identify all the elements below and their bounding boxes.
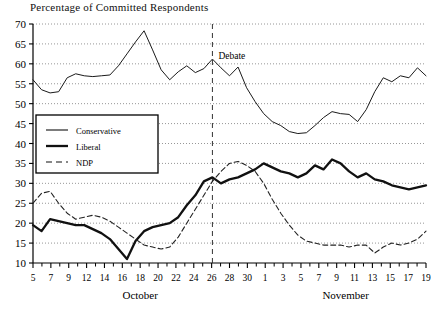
y-axis-tick-label: 25 <box>15 197 27 209</box>
y-axis-tick-label: 55 <box>15 78 27 90</box>
x-axis-group-label-november: November <box>322 289 369 301</box>
x-axis-tick-label: 7 <box>48 273 53 283</box>
y-axis-tick-label: 50 <box>15 98 27 110</box>
x-axis-tick-label: 5 <box>299 273 304 283</box>
y-axis-tick-label: 35 <box>15 157 27 169</box>
line-chart-plot: 1015202530354045505560657057912141618202… <box>0 0 444 310</box>
x-axis-tick-label: 28 <box>225 273 235 283</box>
y-axis-tick-label: 40 <box>15 138 27 150</box>
x-axis-tick-label: 17 <box>403 273 413 283</box>
y-axis-tick-label: 10 <box>15 257 27 269</box>
x-axis-tick-label: 11 <box>350 273 359 283</box>
y-axis-tick-label: 15 <box>15 237 27 249</box>
x-axis-tick-label: 13 <box>368 273 378 283</box>
x-axis-tick-label: 1 <box>263 273 268 283</box>
x-axis-tick-label: 3 <box>281 273 286 283</box>
legend-label-ndp: NDP <box>76 158 93 168</box>
x-axis-tick-label: 16 <box>118 273 128 283</box>
y-axis-tick-label: 30 <box>15 177 27 189</box>
x-axis-group-label-october: October <box>122 289 158 301</box>
x-axis-tick-label: 22 <box>171 273 181 283</box>
x-axis-tick-label: 12 <box>82 273 92 283</box>
x-axis-tick-label: 24 <box>189 273 199 283</box>
x-axis-tick-label: 26 <box>207 273 217 283</box>
legend-label-liberal: Liberal <box>76 142 101 152</box>
chart-container: Percentage of Committed Respondents 1015… <box>0 0 444 310</box>
y-axis-tick-label: 60 <box>15 58 27 70</box>
y-axis-tick-label: 65 <box>15 38 27 50</box>
y-axis-tick-label: 20 <box>15 217 27 229</box>
x-axis-tick-label: 19 <box>421 273 431 283</box>
y-axis-tick-label: 45 <box>15 118 27 130</box>
series-line-liberal <box>33 159 426 259</box>
legend-label-conservative: Conservative <box>76 126 121 136</box>
x-axis-tick-label: 9 <box>66 273 71 283</box>
x-axis-tick-label: 5 <box>31 273 36 283</box>
debate-annotation-label: Debate <box>218 51 245 61</box>
x-axis-tick-label: 18 <box>135 273 145 283</box>
y-axis-tick-label: 70 <box>15 18 27 30</box>
x-axis-tick-label: 20 <box>153 273 163 283</box>
x-axis-tick-label: 30 <box>243 273 253 283</box>
x-axis-tick-label: 15 <box>386 273 396 283</box>
x-axis-tick-label: 14 <box>100 273 110 283</box>
x-axis-tick-label: 9 <box>334 273 339 283</box>
x-axis-tick-label: 7 <box>316 273 321 283</box>
